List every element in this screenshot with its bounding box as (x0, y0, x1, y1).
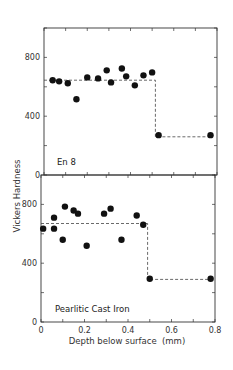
data-point (56, 78, 62, 84)
x-tick-label: 0.2 (78, 326, 91, 335)
data-point (140, 72, 146, 78)
x-tick-label: 0.6 (165, 326, 178, 335)
data-point (40, 225, 46, 231)
x-tick-label: 0.8 (209, 326, 222, 335)
data-point (134, 212, 140, 218)
x-axis-title: Depth below surface (mm) (69, 336, 185, 346)
data-point (108, 79, 114, 85)
data-point (140, 221, 146, 227)
data-point (51, 214, 57, 220)
data-point (60, 236, 66, 242)
data-point (147, 276, 153, 282)
plot-frame (41, 175, 215, 322)
data-point (149, 69, 155, 75)
y-tick-label: 800 (25, 53, 40, 62)
data-point (84, 74, 90, 80)
data-point (155, 132, 161, 138)
plot-frame (44, 28, 217, 175)
data-point (65, 80, 71, 86)
x-tick-label: 0.4 (122, 326, 135, 335)
data-point (51, 225, 57, 231)
data-point (101, 210, 107, 216)
data-point (62, 203, 68, 209)
y-tick-label: 0 (32, 318, 37, 327)
y-axis-title: Vickers Hardness (12, 159, 22, 233)
data-point (49, 77, 55, 83)
y-tick-label: 400 (22, 259, 37, 268)
data-point (104, 67, 110, 73)
y-tick-label: 0 (35, 171, 40, 180)
x-tick-label: 0 (38, 326, 43, 335)
data-point (207, 132, 213, 138)
data-point (95, 75, 101, 81)
y-tick-label: 400 (25, 112, 40, 121)
hardness-depth-chart: 0400800En 8 040080000.20.40.60.8Pearliti… (0, 0, 233, 370)
data-point (83, 243, 89, 249)
data-point (107, 205, 113, 211)
data-point (123, 73, 129, 79)
data-point (207, 276, 213, 282)
y-tick-label: 800 (22, 200, 37, 209)
panel-label: En 8 (57, 157, 76, 167)
panel-label: Pearlitic Cast Iron (55, 304, 130, 314)
panel-en8: 0400800En 8 (25, 28, 217, 180)
data-point (119, 65, 125, 71)
data-point (118, 236, 124, 242)
step-fit-line (41, 224, 211, 280)
data-point (73, 96, 79, 102)
data-point (75, 210, 81, 216)
step-fit-line (44, 80, 213, 137)
panel-pearlitic-cast-iron: 040080000.20.40.60.8Pearlitic Cast Iron (22, 175, 222, 335)
data-point (132, 82, 138, 88)
